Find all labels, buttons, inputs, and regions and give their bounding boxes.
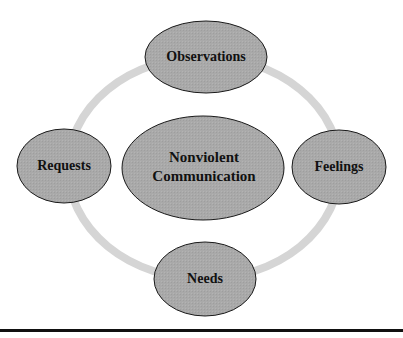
node-observations: Observations (145, 21, 267, 93)
node-requests-label: Requests (37, 158, 91, 173)
node-feelings-label: Feelings (315, 159, 365, 174)
nvc-cycle-diagram: Observations Requests Feelings Needs Non… (0, 0, 403, 338)
center-node: Nonviolent Communication (122, 116, 284, 220)
bottom-rule (0, 329, 403, 332)
node-requests: Requests (17, 129, 111, 203)
node-needs-label: Needs (187, 271, 223, 286)
node-feelings: Feelings (292, 130, 386, 204)
node-needs: Needs (154, 242, 256, 316)
center-label-line-2: Communication (152, 168, 256, 184)
center-label-line-1: Nonviolent (169, 149, 239, 165)
node-observations-label: Observations (166, 49, 246, 64)
